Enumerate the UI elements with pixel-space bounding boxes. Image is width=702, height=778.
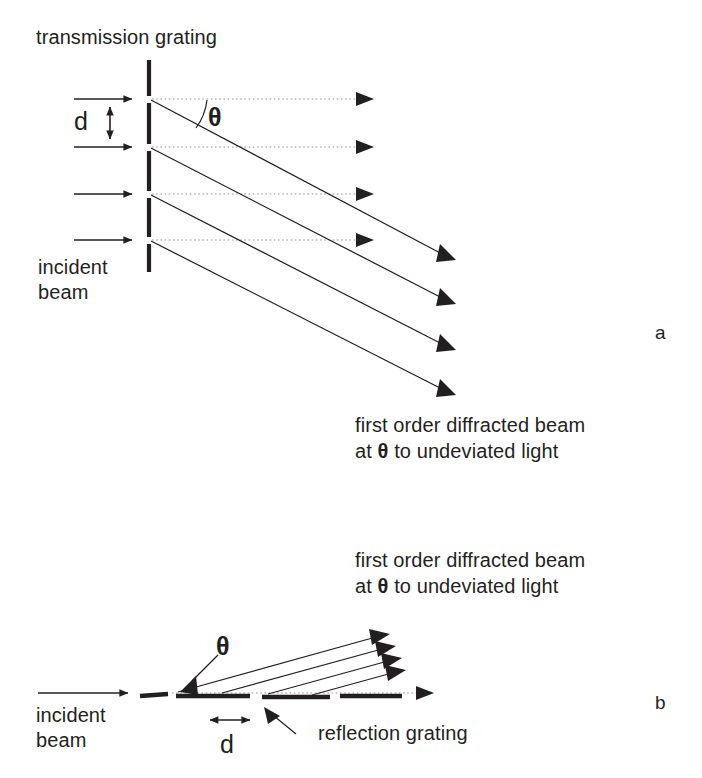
diffracted-beam-caption-a-line2: at θ to undeviated light bbox=[355, 440, 558, 464]
diffracted-beam-rays-a bbox=[151, 100, 444, 390]
caption-a-suffix: to undeviated light bbox=[388, 440, 558, 462]
incident-beam-label-b-line1: incident bbox=[36, 704, 106, 728]
panel-a-graphics bbox=[74, 60, 456, 397]
diffracted-beam-arrowheads-b bbox=[369, 629, 406, 681]
undeviated-rays-a bbox=[152, 99, 360, 240]
reflection-grating-leader bbox=[274, 716, 296, 734]
undeviated-ray-arrowhead-b bbox=[416, 686, 434, 700]
diffracted-beam-caption-a-line1: first order diffracted beam bbox=[355, 414, 585, 438]
theta-label-b: θ bbox=[216, 632, 230, 662]
theta-label-a: θ bbox=[208, 103, 222, 133]
diffracted-beam-caption-b-line2: at θ to undeviated light bbox=[355, 575, 558, 599]
figure-canvas bbox=[0, 0, 702, 778]
incident-beam-label-a-line1: incident bbox=[38, 256, 108, 280]
caption-a-theta: θ bbox=[378, 440, 389, 462]
caption-b-suffix: to undeviated light bbox=[388, 575, 558, 597]
theta-leader-arrowhead-b bbox=[180, 676, 198, 695]
caption-a-prefix: at bbox=[355, 440, 378, 462]
caption-b-theta: θ bbox=[378, 575, 389, 597]
reflection-grating-bar bbox=[140, 694, 402, 697]
diffracted-beam-caption-b-line1: first order diffracted beam bbox=[355, 549, 585, 573]
reflection-grating-label: reflection grating bbox=[318, 722, 468, 746]
diffracted-beam-rays-b bbox=[178, 637, 392, 695]
caption-b-prefix: at bbox=[355, 575, 378, 597]
spacing-label-b: d bbox=[220, 730, 234, 760]
undeviated-ray-arrowheads-a bbox=[356, 92, 374, 247]
transmission-grating-title: transmission grating bbox=[36, 26, 217, 50]
panel-label-b: b bbox=[655, 692, 666, 714]
diffracted-beam-arrowheads-a bbox=[436, 244, 456, 397]
reflection-grating-leader-arrowhead bbox=[264, 707, 280, 724]
incident-beam-label-b-line2: beam bbox=[36, 729, 86, 753]
diffraction-grating-figure: transmission grating d θ incident beam f… bbox=[0, 0, 702, 778]
incident-beam-label-a-line2: beam bbox=[38, 281, 88, 305]
panel-label-a: a bbox=[655, 322, 666, 344]
spacing-label-a: d bbox=[74, 107, 88, 137]
theta-angle-arc-a bbox=[196, 100, 207, 128]
